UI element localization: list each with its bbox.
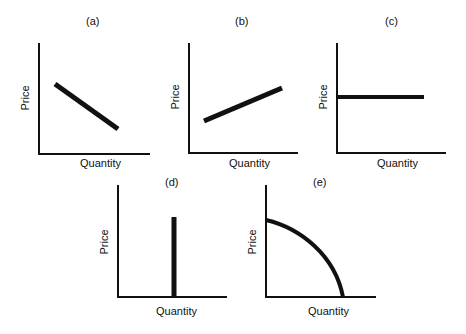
panel-e-xlabel: Quantity — [308, 305, 349, 317]
panel-a-line — [55, 84, 118, 129]
panel-a-title: (a) — [86, 15, 99, 27]
panel-a-xlabel: Quantity — [80, 157, 121, 169]
panel-e-axes — [266, 185, 376, 297]
panel-d-xlabel: Quantity — [156, 305, 197, 317]
panel-c-xlabel: Quantity — [377, 157, 418, 169]
panel-d-ylabel: Price — [98, 229, 110, 254]
panel-e-ylabel: Price — [246, 229, 258, 254]
panel-c-ylabel: Price — [317, 84, 329, 109]
panel-e-title: (e) — [313, 176, 326, 188]
panel-d-title: (d) — [165, 176, 178, 188]
panel-b-ylabel: Price — [169, 84, 181, 109]
panel-b-line — [204, 88, 282, 121]
panel-a-ylabel: Price — [19, 85, 31, 110]
panel-b-axes — [189, 43, 298, 153]
panel-b-xlabel: Quantity — [229, 157, 270, 169]
panel-c-title: (c) — [385, 15, 398, 27]
panel-a-axes — [39, 43, 150, 154]
panel-b-title: (b) — [235, 15, 248, 27]
panel-e-curve — [266, 220, 343, 297]
figure: (a) (b) (c) (d) (e) Quantity Quantity Qu… — [0, 0, 466, 334]
